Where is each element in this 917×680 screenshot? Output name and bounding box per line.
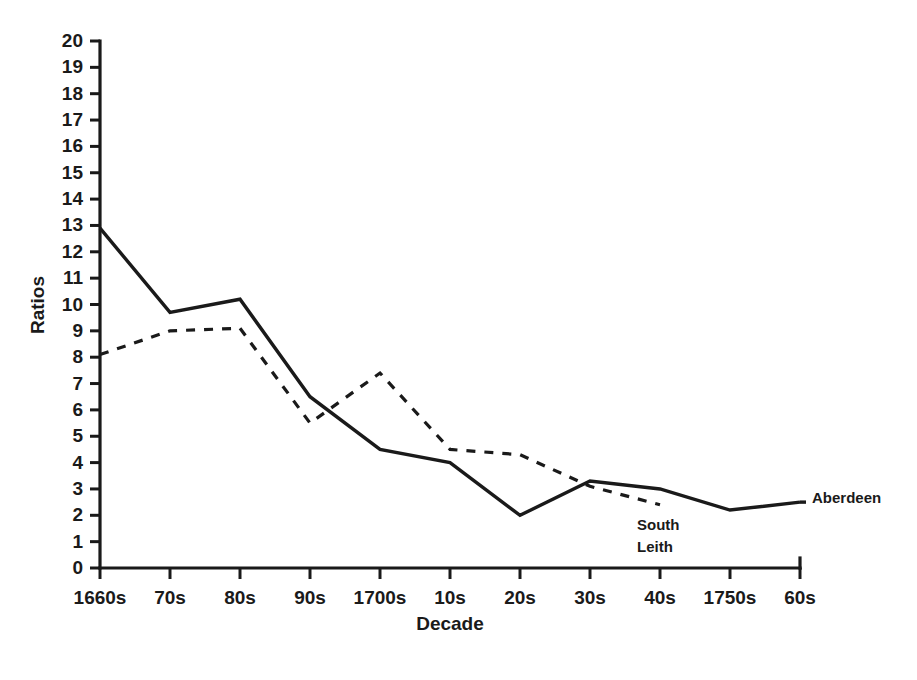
y-tick-label-19: 19 [62,56,83,77]
y-axis-title: Ratios [27,276,48,334]
y-tick-label-2: 2 [72,504,83,525]
y-tick-label-4: 4 [72,452,83,473]
ratios-by-decade-line-chart: 01234567891011121314151617181920 1660s70… [0,0,917,680]
y-tick-label-0: 0 [72,557,83,578]
y-tick-label-1: 1 [72,531,83,552]
y-tick-label-11: 11 [63,267,84,288]
y-tick-label-20: 20 [62,30,83,51]
x-tick-label-40s: 40s [644,587,676,608]
chart-figure: 01234567891011121314151617181920 1660s70… [0,0,917,680]
x-axis-ticks: 1660s70s80s90s1700s10s20s30s40s1750s60s [74,568,816,608]
x-tick-label-60s: 60s [784,587,816,608]
y-tick-label-6: 6 [72,399,83,420]
x-tick-label-1660s: 1660s [74,587,127,608]
y-tick-label-3: 3 [72,478,83,499]
data-series-group [100,228,806,515]
series-line-aberdeen [100,228,800,515]
y-tick-label-13: 13 [62,214,83,235]
series-label-aberdeen: Aberdeen [812,489,881,506]
x-tick-label-1700s: 1700s [354,587,407,608]
y-tick-label-14: 14 [62,188,84,209]
y-tick-label-8: 8 [72,346,83,367]
x-tick-label-80s: 80s [224,587,256,608]
series-line-south-leith [100,328,660,505]
series-label-south-leith-line1: South [637,516,680,533]
x-tick-label-10s: 10s [434,587,466,608]
y-tick-label-7: 7 [72,373,83,394]
y-tick-label-5: 5 [72,425,83,446]
x-tick-label-20s: 20s [504,587,536,608]
y-tick-label-17: 17 [62,109,83,130]
x-tick-label-30s: 30s [574,587,606,608]
y-tick-label-18: 18 [62,83,83,104]
y-tick-label-12: 12 [62,241,83,262]
x-axis-title: Decade [416,613,484,634]
x-tick-label-70s: 70s [154,587,186,608]
y-axis-ticks: 01234567891011121314151617181920 [62,30,100,578]
y-tick-label-16: 16 [62,135,83,156]
x-tick-label-90s: 90s [294,587,326,608]
x-tick-label-1750s: 1750s [704,587,757,608]
y-tick-label-9: 9 [72,320,83,341]
series-label-south-leith-line2: Leith [637,538,673,555]
y-tick-label-10: 10 [62,294,83,315]
y-tick-label-15: 15 [62,162,84,183]
